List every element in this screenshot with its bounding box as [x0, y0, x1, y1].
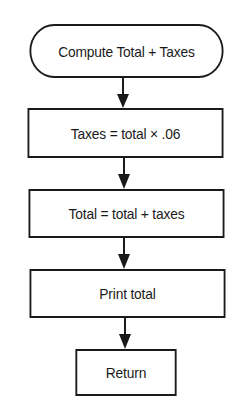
- start-label: Compute Total + Taxes: [58, 43, 194, 60]
- total-label: Total = total + taxes: [69, 205, 185, 222]
- return-process-box: Return: [75, 349, 176, 396]
- print-process-box: Print total: [30, 269, 226, 318]
- taxes-label: Taxes = total × .06: [71, 125, 180, 142]
- start-terminator: Compute Total + Taxes: [29, 24, 223, 78]
- print-label: Print total: [99, 285, 155, 302]
- taxes-process-box: Taxes = total × .06: [28, 108, 224, 158]
- total-process-box: Total = total + taxes: [29, 189, 225, 238]
- return-label: Return: [106, 364, 146, 381]
